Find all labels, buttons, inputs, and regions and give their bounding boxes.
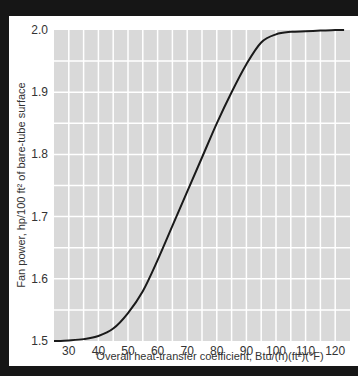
y-axis-label: Fan power, hp/100 ft² of bare-tube surfa… — [15, 82, 27, 287]
y-tick-label: 1.9 — [31, 85, 48, 99]
y-axis-ticks: 1.51.61.71.81.92.0 — [31, 23, 48, 348]
fan-power-chart: 1.51.61.71.81.92.0 304050607080901001101… — [0, 0, 358, 376]
y-tick-label: 1.5 — [31, 334, 48, 348]
y-tick-label: 1.7 — [31, 210, 48, 224]
y-tick-label: 2.0 — [31, 23, 48, 37]
y-tick-label: 1.6 — [31, 272, 48, 286]
grid-lines — [54, 30, 350, 341]
x-tick-label: 30 — [62, 344, 76, 358]
y-tick-label: 1.8 — [31, 147, 48, 161]
x-tick-label: 120 — [325, 344, 345, 358]
x-axis-label: Overall heat-transfer coefficient, Btu/(… — [96, 350, 323, 362]
